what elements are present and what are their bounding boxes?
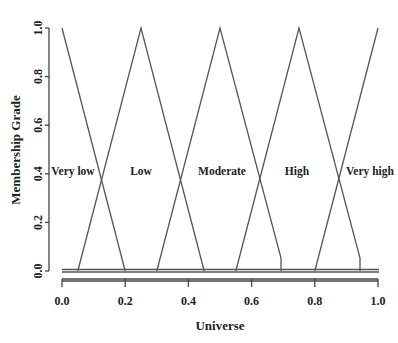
y-tick-3: 0.6: [31, 118, 45, 133]
x-tick-5: 1.0: [371, 294, 386, 308]
series-low: [78, 28, 204, 271]
label-moderate: Moderate: [198, 165, 246, 177]
x-tick-1: 0.2: [118, 294, 133, 308]
baseline: [62, 270, 379, 273]
y-tick-0: 0.0: [31, 264, 45, 279]
label-low: Low: [130, 165, 152, 177]
y-axis-title: Membership Grade: [8, 95, 23, 205]
x-tick-labels: 0.0 0.2 0.4 0.6 0.8 1.0: [55, 294, 386, 308]
y-tick-1: 0.2: [31, 215, 45, 230]
x-tick-3: 0.6: [244, 294, 259, 308]
series-moderate: [157, 28, 281, 271]
x-tick-0: 0.0: [55, 294, 70, 308]
x-axis: [62, 279, 378, 287]
y-tick-labels: 0.0 0.2 0.4 0.6 0.8 1.0: [31, 21, 45, 279]
label-very-low: Very low: [51, 165, 95, 178]
y-tick-2: 0.4: [31, 166, 45, 181]
x-tick-2: 0.4: [181, 294, 196, 308]
membership-lines: [62, 28, 378, 271]
y-tick-4: 0.8: [31, 69, 45, 84]
label-high: High: [285, 165, 310, 178]
fuzzy-membership-chart: 0.0 0.2 0.4 0.6 0.8 1.0 Membership Grade…: [0, 0, 398, 343]
label-very-high: Very high: [346, 165, 394, 178]
series-very-high: [315, 28, 378, 271]
series-very-low: [62, 28, 125, 271]
x-axis-title: Universe: [195, 318, 244, 333]
y-axis: [45, 28, 49, 271]
y-tick-5: 1.0: [31, 21, 45, 36]
x-tick-4: 0.8: [307, 294, 322, 308]
series-high: [236, 28, 360, 271]
